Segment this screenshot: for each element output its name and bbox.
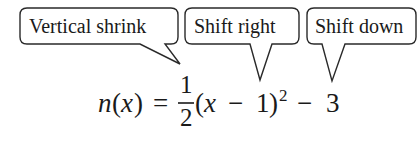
callout-label-shift-down: Shift down (315, 14, 403, 38)
callout-label-vertical-shrink: Vertical shrink (29, 14, 146, 38)
inner-minus: − (228, 88, 243, 118)
equals-sign: = (153, 88, 168, 118)
fraction-numerator: 1 (180, 71, 193, 99)
inner-close-paren: ) (269, 88, 278, 118)
fraction-denominator: 2 (180, 104, 193, 132)
inner-open-paren: ( (195, 88, 204, 118)
function-name: n (98, 88, 112, 118)
close-paren: ) (134, 88, 143, 118)
inner-variable: x (204, 88, 216, 118)
outer-constant: 3 (326, 88, 340, 118)
callout-label-shift-right: Shift right (194, 14, 276, 38)
exponent: 2 (279, 86, 288, 106)
open-paren: ( (112, 88, 121, 118)
variable: x (121, 88, 133, 118)
inner-constant: 1 (256, 88, 270, 118)
outer-minus: − (297, 88, 312, 118)
